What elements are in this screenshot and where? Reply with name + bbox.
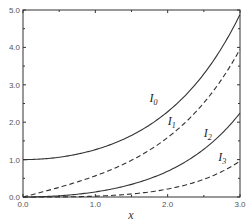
plot-frame xyxy=(23,10,240,197)
y-tick-label: 0.0 xyxy=(9,193,21,202)
y-tick-label: 5.0 xyxy=(9,6,21,15)
x-tick-label: 3.0 xyxy=(234,200,246,209)
series-line-I3 xyxy=(23,161,240,197)
series-label-I3: I3 xyxy=(217,150,226,166)
series-layer xyxy=(23,14,240,197)
x-tick-label: 2.0 xyxy=(162,200,174,209)
bessel-chart: 0.01.02.03.00.01.02.03.04.05.0 I0I1I2I3 … xyxy=(0,0,248,224)
x-axis-title: x xyxy=(127,208,134,222)
series-label-I0: I0 xyxy=(149,91,158,107)
series-label-I1: I1 xyxy=(167,114,176,130)
ticks-layer: 0.01.02.03.00.01.02.03.04.05.0 xyxy=(9,6,246,209)
y-tick-label: 3.0 xyxy=(9,81,21,90)
series-label-I2: I2 xyxy=(203,126,212,142)
y-tick-label: 4.0 xyxy=(9,43,21,52)
labels-layer: I0I1I2I3 xyxy=(149,91,227,167)
series-line-I1 xyxy=(23,49,240,197)
x-tick-label: 1.0 xyxy=(90,200,102,209)
y-tick-label: 2.0 xyxy=(9,118,21,127)
y-tick-label: 1.0 xyxy=(9,156,21,165)
